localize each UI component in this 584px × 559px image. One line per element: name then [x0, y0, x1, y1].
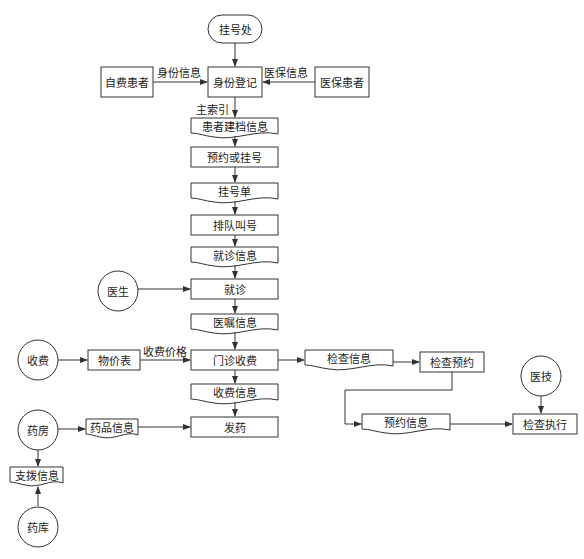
drug-info-node: 药品信息: [86, 419, 138, 435]
outpatient-billing-node: 门诊收费: [191, 350, 278, 370]
registration-office-node: 挂号处: [208, 15, 262, 43]
appointment-info-node: 预约信息: [362, 414, 450, 430]
drug-warehouse-node: 药库: [18, 507, 58, 547]
exam-info-node: 检查信息: [305, 350, 393, 366]
pharmacy-node: 药房: [18, 410, 58, 450]
exam-execution-node: 检查执行: [513, 414, 577, 434]
edge-label-identity-info: 身份信息: [157, 64, 201, 80]
consultation-node: 就诊: [191, 279, 278, 299]
self-pay-patient-node: 自费患者: [101, 67, 153, 97]
patient-record-info-node: 患者建档信息: [191, 118, 278, 134]
cashier-node: 收费: [18, 340, 58, 380]
medical-technician-node: 医技: [521, 356, 561, 396]
edge-label-insurance-info: 医保信息: [264, 64, 308, 80]
doctor-node: 医生: [98, 271, 138, 311]
billing-info-node: 收费信息: [191, 384, 278, 400]
transfer-info-node: 支拨信息: [10, 467, 63, 483]
exam-appointment-node: 检查预约: [420, 352, 484, 372]
edge-label-fee-price: 收费价格: [143, 343, 187, 359]
insured-patient-node: 医保患者: [315, 67, 369, 97]
diagram-canvas: [0, 0, 584, 559]
queue-calling-node: 排队叫号: [191, 215, 278, 235]
price-list-node: 物价表: [88, 350, 140, 370]
identity-registration-node: 身份登记: [208, 67, 262, 97]
dispense-node: 发药: [191, 417, 278, 437]
edge-label-master-index: 主索引: [196, 101, 229, 117]
registration-slip-node: 挂号单: [191, 183, 278, 199]
visit-info-node: 就诊信息: [191, 247, 278, 263]
appointment-or-register-node: 预约或挂号: [191, 147, 278, 167]
medical-order-info-node: 医嘱信息: [191, 314, 278, 330]
